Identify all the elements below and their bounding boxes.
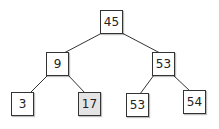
edge-45-9 <box>64 33 102 53</box>
edge-9-3 <box>30 75 48 93</box>
tree-node-left-right-highlighted: 17 <box>78 92 101 116</box>
tree-node-left-left: 3 <box>11 92 34 116</box>
tree-node-root: 45 <box>100 10 123 34</box>
edge-53-53 <box>140 75 154 94</box>
edge-45-53 <box>122 33 160 53</box>
tree-node-right-left: 53 <box>126 93 149 117</box>
tree-node-right: 53 <box>152 52 175 76</box>
tree-node-right-right: 54 <box>183 90 206 114</box>
edge-53-54 <box>173 75 190 91</box>
edge-9-17 <box>68 75 85 93</box>
tree-node-left: 9 <box>46 52 69 76</box>
